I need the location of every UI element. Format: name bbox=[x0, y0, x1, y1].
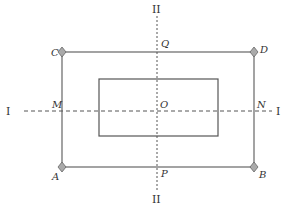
vertex-D-marker bbox=[250, 47, 258, 57]
axis-II-bottom-label: II bbox=[152, 193, 161, 206]
axis-I-right-label: I bbox=[276, 105, 280, 118]
point-C-label: C bbox=[51, 47, 59, 58]
point-D-label: D bbox=[259, 44, 268, 55]
point-Q-label: Q bbox=[161, 38, 169, 49]
vertex-B-marker bbox=[250, 162, 258, 172]
outer-rectangle bbox=[62, 52, 254, 167]
point-O-label: O bbox=[160, 99, 168, 110]
point-N-label: N bbox=[256, 99, 267, 110]
axis-I-left-label: I bbox=[6, 105, 10, 118]
geometry-diagram: I I II II C D A B Q P M N O bbox=[0, 0, 294, 210]
inner-rectangle bbox=[99, 79, 218, 136]
vertex-C-marker bbox=[58, 47, 66, 57]
point-A-label: A bbox=[51, 171, 59, 182]
point-P-label: P bbox=[160, 168, 168, 179]
point-M-label: M bbox=[51, 99, 63, 110]
axis-II-top-label: II bbox=[152, 3, 161, 16]
point-B-label: B bbox=[258, 169, 266, 180]
